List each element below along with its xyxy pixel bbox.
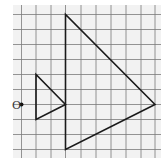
center-label-o: O xyxy=(12,99,21,112)
enlargement-diagram: O xyxy=(0,0,164,162)
